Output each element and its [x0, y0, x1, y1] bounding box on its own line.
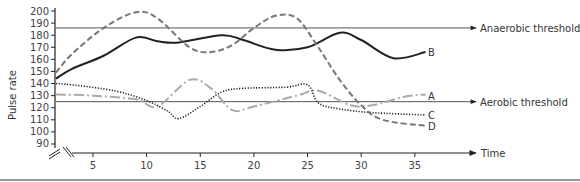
series-line-a	[56, 79, 426, 111]
y-tick-label: 190	[30, 18, 49, 29]
x-axis-label: Time	[480, 148, 505, 159]
series-label-d: D	[428, 121, 436, 132]
threshold-lines	[56, 28, 476, 102]
x-tick-label: 5	[90, 160, 96, 171]
y-tick-label: 130	[30, 90, 49, 101]
x-axis: 5101520253035	[63, 147, 476, 171]
series-label-a: A	[428, 91, 435, 102]
x-tick-label: 10	[140, 160, 153, 171]
x-tick-label: 25	[301, 160, 314, 171]
aerobic-threshold-label: Aerobic threshold	[480, 97, 568, 108]
y-axis: 90100110120130140150160170180190200	[30, 6, 60, 159]
y-tick-label: 90	[36, 138, 49, 149]
y-tick-label: 140	[30, 78, 49, 89]
x-tick-label: 30	[355, 160, 368, 171]
y-tick-label: 160	[30, 54, 49, 65]
y-tick-label: 170	[30, 42, 49, 53]
y-axis-label: Pulse rate	[7, 70, 18, 120]
y-tick-label: 110	[30, 114, 49, 125]
anaerobic-threshold-label: Anaerobic threshold	[480, 23, 580, 34]
series-label-b: B	[428, 47, 435, 58]
series-label-c: C	[428, 110, 435, 121]
series-line-b	[56, 33, 426, 79]
pulse-rate-chart: 90100110120130140150160170180190200 5101…	[0, 0, 580, 182]
y-tick-label: 150	[30, 66, 49, 77]
y-tick-label: 100	[30, 126, 49, 137]
x-tick-label: 35	[408, 160, 421, 171]
y-tick-label: 120	[30, 102, 49, 113]
y-tick-label: 180	[30, 30, 49, 41]
data-series	[56, 12, 426, 126]
x-tick-label: 20	[248, 160, 261, 171]
x-tick-label: 15	[194, 160, 207, 171]
y-tick-label: 200	[30, 6, 49, 17]
series-line-d	[56, 12, 426, 126]
